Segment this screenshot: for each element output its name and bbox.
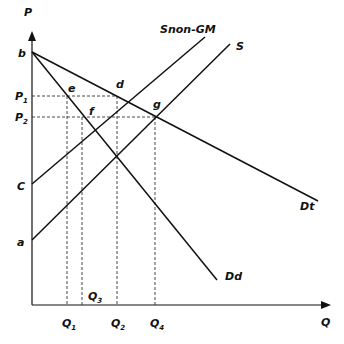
p2-label: P2 xyxy=(15,111,28,126)
axes xyxy=(28,31,331,309)
s-curve xyxy=(32,44,230,240)
q2-label: Q2 xyxy=(111,317,125,332)
snon-gm-label: Snon-GM xyxy=(160,23,216,36)
x-axis-arrow-icon xyxy=(321,301,331,309)
intercept-c-label: C xyxy=(17,180,25,193)
y-axis-label: P xyxy=(24,6,32,19)
x-axis-label: Q xyxy=(321,316,330,329)
point-d-label: d xyxy=(116,78,124,91)
dt-label: Dt xyxy=(300,200,315,213)
point-g-label: g xyxy=(153,98,161,111)
supply-demand-diagram: P Q b C a P1 P2 Q1 Q3 Q2 Q4 e d f g Snon… xyxy=(0,0,344,344)
q1-label: Q1 xyxy=(62,317,76,332)
dt-curve xyxy=(32,52,318,201)
y-axis-arrow-icon xyxy=(28,31,36,41)
curves xyxy=(32,37,318,280)
dd-curve xyxy=(32,52,217,280)
dd-label: Dd xyxy=(225,270,242,283)
point-f-label: f xyxy=(89,105,95,118)
intercept-a-label: a xyxy=(17,236,24,249)
p1-label: P1 xyxy=(15,90,28,105)
q4-label: Q4 xyxy=(150,317,164,332)
snon-gm-curve xyxy=(32,37,205,184)
point-e-label: e xyxy=(68,82,76,95)
q3-label: Q3 xyxy=(88,290,102,305)
s-label: S xyxy=(236,40,244,53)
intercept-b-label: b xyxy=(18,47,26,60)
